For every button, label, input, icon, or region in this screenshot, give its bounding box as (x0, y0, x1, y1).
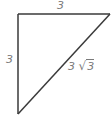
hypotenuse-radicand: 3 (86, 59, 94, 73)
left-side-label: 3 (6, 54, 13, 65)
square-root-icon: √ (79, 59, 87, 73)
square-root-expression: √3 (79, 60, 95, 72)
top-side-label: 3 (57, 0, 64, 11)
hypotenuse-line (18, 14, 110, 114)
right-triangle-shape (0, 0, 112, 125)
triangle-diagram: 3 3 3 √3 (0, 0, 112, 125)
hypotenuse-label: 3 √3 (68, 60, 94, 72)
hypotenuse-coefficient: 3 (68, 60, 75, 73)
